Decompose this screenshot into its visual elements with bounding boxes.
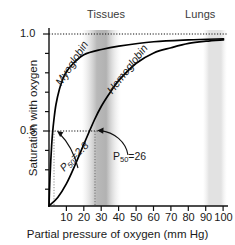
x-axis-title: Partial pressure of oxygen (mm Hg) xyxy=(0,228,235,240)
x-tick-label-40: 40 xyxy=(113,211,125,223)
x-tick-label-80: 80 xyxy=(182,211,194,223)
band-label-tissues: Tissues xyxy=(87,8,125,20)
x-tick-label-10: 10 xyxy=(60,211,72,223)
p50-hemoglobin-value: =26 xyxy=(128,150,146,162)
annotation-p50-hemoglobin: P50=26 xyxy=(113,150,146,164)
band-label-lungs: Lungs xyxy=(185,8,215,20)
p50-hemoglobin-prefix: P xyxy=(113,150,120,162)
band-lungs xyxy=(203,30,227,206)
x-tick-label-70: 70 xyxy=(165,211,177,223)
band-tissues xyxy=(82,30,121,206)
y-axis-ticks xyxy=(43,34,49,189)
x-tick-label-50: 50 xyxy=(130,211,142,223)
x-tick-label-row: 102030405060708090100 xyxy=(49,211,229,225)
x-tick-label-20: 20 xyxy=(78,211,90,223)
x-tick-label-100: 100 xyxy=(214,211,232,223)
x-tick-label-90: 90 xyxy=(200,211,212,223)
x-tick-label-60: 60 xyxy=(148,211,160,223)
x-tick-label-30: 30 xyxy=(95,211,107,223)
oxygen-saturation-chart: Tissues Lungs 1.0 0.5 102030405060708090… xyxy=(0,0,235,245)
y-axis-title: Saturation with oxygen xyxy=(27,38,39,198)
